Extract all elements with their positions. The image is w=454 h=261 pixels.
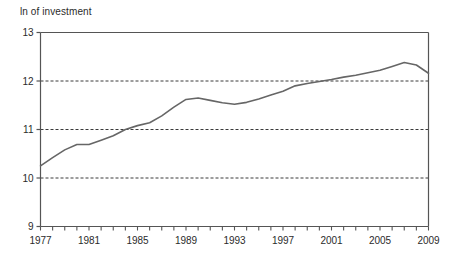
x-axis-tick-label: 1977 bbox=[29, 235, 52, 246]
x-axis-tick-label: 1981 bbox=[78, 235, 101, 246]
gridlines-group bbox=[41, 81, 429, 178]
y-axis-tick-label: 9 bbox=[28, 221, 34, 232]
line-chart-plot: 910111213 197719811985198919931997200120… bbox=[0, 0, 454, 261]
x-axis-tick-label: 1985 bbox=[126, 235, 149, 246]
y-axis-tick-label: 12 bbox=[22, 76, 34, 87]
chart-container: ln of investment 910111213 1977198119851… bbox=[0, 0, 454, 261]
x-axis-tick-label: 2005 bbox=[369, 235, 392, 246]
x-axis-tick-label: 2009 bbox=[417, 235, 440, 246]
x-axis-tick-label: 1993 bbox=[223, 235, 246, 246]
y-axis-tick-label: 10 bbox=[22, 173, 34, 184]
x-axis-tick-label: 1989 bbox=[175, 235, 198, 246]
y-axis-tick-label: 13 bbox=[22, 27, 34, 38]
y-axis-tick-label: 11 bbox=[23, 124, 34, 135]
x-axis-tick-label: 2001 bbox=[320, 235, 343, 246]
x-axis-tick-label: 1997 bbox=[272, 235, 295, 246]
x-axis-group: 197719811985198919931997200120052009 bbox=[29, 227, 440, 246]
data-series-group bbox=[41, 63, 429, 166]
data-line bbox=[41, 63, 429, 166]
